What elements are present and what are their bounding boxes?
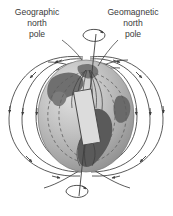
- label-geomagnetic-line2: north: [123, 18, 143, 28]
- arrowhead-right-mid: [150, 108, 151, 115]
- rotation-spin-arrow-bottom: [66, 185, 88, 197]
- label-geographic-line2: north: [27, 18, 47, 28]
- arrowhead-left-far: [9, 106, 10, 113]
- spin-ellipse-top: [83, 29, 105, 41]
- label-geographic-line3: pole: [29, 29, 45, 39]
- label-geomagnetic-north-pole: Geomagnetic north pole: [107, 7, 159, 39]
- diagram-canvas: Geographic north pole Geomagnetic north …: [0, 0, 173, 216]
- label-geographic-north-pole: Geographic north pole: [15, 7, 60, 39]
- arrowhead-right-upper: [136, 72, 142, 78]
- arrowhead-right-far: [163, 106, 164, 113]
- label-geomagnetic-line3: pole: [125, 29, 141, 39]
- earth-magnetic-field-diagram: Geographic north pole Geomagnetic north …: [0, 0, 173, 216]
- label-geomagnetic-line1: Geomagnetic: [107, 7, 159, 17]
- arrowhead-left-mid: [23, 108, 24, 115]
- arrowhead-bottom-left: [52, 176, 60, 178]
- label-geographic-line1: Geographic: [15, 7, 60, 17]
- rotation-spin-arrow-top: [83, 29, 105, 41]
- arrowhead-bottom-right: [112, 176, 120, 178]
- arrowhead-left-upper: [30, 72, 36, 78]
- spin-ellipse-bottom: [66, 185, 88, 197]
